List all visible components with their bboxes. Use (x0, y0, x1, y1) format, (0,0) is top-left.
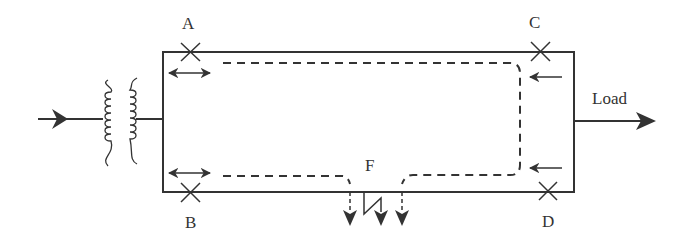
source-input (38, 109, 103, 129)
breaker-b: B (169, 173, 210, 232)
breaker-c-label: C (529, 13, 540, 32)
load-label: Load (592, 89, 627, 108)
fault-current-right-arrow-icon (395, 210, 409, 226)
secondary-coil (130, 78, 137, 164)
ring-main-diagram: Load A B C D F (0, 0, 690, 246)
breaker-a-label: A (182, 14, 195, 33)
primary-coil (105, 80, 112, 166)
breaker-d: D (530, 168, 562, 231)
load-output: Load (574, 89, 656, 130)
breaker-d-label: D (542, 212, 554, 231)
breaker-c: C (529, 13, 562, 77)
breaker-b-label: B (185, 213, 196, 232)
transformer (105, 78, 163, 166)
breaker-a: A (169, 14, 210, 73)
fault-lightning-icon (364, 192, 381, 214)
fault-ground-arrow-icon (374, 210, 388, 226)
fault-current-left-arrow-icon (343, 210, 357, 226)
fault-label: F (365, 156, 374, 175)
